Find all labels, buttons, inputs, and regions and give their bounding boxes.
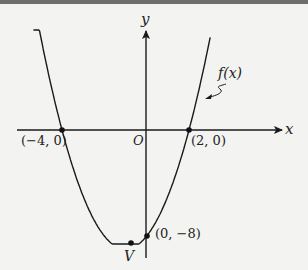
point-2-0 [186, 127, 192, 133]
point-label-2-0: (2, 0) [191, 133, 226, 148]
fx-pointer-arrow [210, 84, 226, 97]
function-label: f(x) [217, 65, 242, 81]
vertex-label: V [124, 248, 136, 264]
parabola-graph: y x O f(x) (−4, 0) (2, 0) (0, −8) V [0, 0, 308, 270]
point-label-0-neg8: (0, −8) [155, 226, 201, 241]
point-neg4-0 [59, 127, 65, 133]
x-axis-label: x [285, 120, 294, 138]
point-label-neg4-0: (−4, 0) [21, 133, 67, 148]
fx-pointer-arrowhead [205, 94, 212, 99]
point-0-neg8 [144, 233, 150, 239]
point-vertex [128, 240, 134, 246]
y-axis-label: y [140, 10, 150, 28]
origin-label: O [133, 133, 144, 148]
